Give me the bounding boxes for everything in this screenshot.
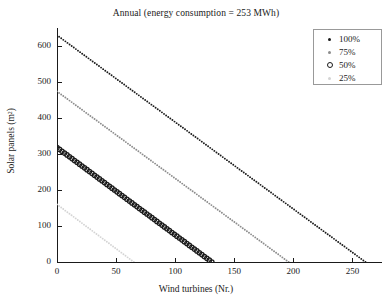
data-marker	[89, 115, 91, 117]
data-marker	[306, 218, 308, 220]
data-marker	[227, 216, 229, 218]
data-marker	[264, 187, 266, 189]
data-marker	[183, 184, 185, 186]
data-marker	[108, 129, 110, 131]
data-marker	[162, 169, 164, 171]
data-marker	[222, 156, 224, 158]
legend-label: 25%	[339, 71, 356, 85]
data-marker	[271, 249, 273, 251]
legend-item-100[interactable]: 100%	[314, 32, 383, 46]
data-marker	[225, 215, 227, 217]
data-marker	[133, 261, 135, 262]
data-marker	[289, 206, 291, 208]
data-marker	[92, 117, 94, 119]
data-marker	[104, 126, 106, 128]
data-marker	[210, 204, 212, 206]
data-marker	[256, 238, 258, 240]
data-marker	[236, 223, 238, 225]
data-marker	[261, 241, 263, 243]
data-marker	[233, 221, 235, 223]
legend-item-75[interactable]: 75%	[314, 45, 383, 59]
data-marker	[118, 250, 120, 252]
data-marker	[79, 221, 81, 223]
data-marker	[64, 40, 66, 42]
data-marker	[291, 207, 293, 209]
data-marker	[184, 128, 186, 130]
data-marker	[241, 170, 243, 172]
data-marker	[57, 90, 58, 92]
data-marker	[203, 142, 205, 144]
y-tick-label: 600	[25, 40, 51, 50]
data-marker	[177, 180, 179, 182]
data-marker	[106, 241, 108, 243]
data-marker	[114, 133, 116, 135]
x-axis-line	[57, 262, 382, 263]
data-marker	[167, 116, 169, 118]
data-marker	[121, 82, 123, 84]
data-marker	[179, 181, 181, 183]
data-marker	[215, 207, 217, 209]
data-marker	[220, 155, 222, 157]
data-marker	[144, 99, 146, 101]
data-marker	[211, 148, 213, 150]
data-marker	[195, 136, 197, 138]
data-marker	[169, 118, 171, 120]
data-marker	[209, 147, 211, 149]
data-marker	[287, 204, 289, 206]
data-marker	[247, 175, 249, 177]
data-marker	[96, 120, 98, 122]
data-marker	[228, 161, 230, 163]
data-marker	[219, 210, 221, 212]
data-marker	[87, 227, 89, 229]
data-marker	[175, 178, 177, 180]
data-marker	[354, 253, 356, 255]
data-marker	[108, 242, 110, 244]
legend-item-50[interactable]: 50%	[314, 58, 383, 72]
y-tick-label: 400	[25, 112, 51, 122]
data-marker	[116, 249, 118, 251]
data-marker	[246, 230, 248, 232]
data-marker	[106, 127, 108, 129]
data-marker	[274, 195, 276, 197]
data-marker	[276, 196, 278, 198]
y-axis-label: Solar panels (m²)	[6, 61, 16, 221]
data-marker	[58, 36, 60, 38]
data-marker	[96, 233, 98, 235]
data-marker	[253, 179, 255, 181]
data-marker	[69, 100, 71, 102]
data-marker	[112, 132, 114, 134]
data-marker	[318, 227, 320, 229]
data-marker	[325, 232, 327, 234]
data-marker	[206, 201, 208, 203]
y-tick-label: 100	[25, 220, 51, 230]
legend-label: 100%	[339, 32, 360, 46]
data-marker	[192, 135, 194, 137]
x-tick-label: 200	[273, 266, 313, 276]
data-marker	[71, 101, 73, 103]
data-marker	[267, 246, 269, 248]
data-marker	[182, 127, 184, 129]
data-marker	[260, 184, 262, 186]
data-marker	[129, 88, 131, 90]
legend-marker-icon	[323, 45, 337, 59]
data-marker	[161, 111, 163, 113]
data-marker	[254, 236, 256, 238]
data-marker	[286, 260, 288, 262]
data-marker	[327, 233, 329, 235]
data-marker	[148, 158, 150, 160]
data-marker	[154, 163, 156, 165]
data-marker	[117, 135, 119, 137]
chart-figure: Annual (energy consumption = 253 MWh) 05…	[0, 0, 392, 308]
data-marker	[238, 224, 240, 226]
chart-legend[interactable]: 100%75%50%25%	[313, 29, 382, 85]
data-marker	[83, 110, 85, 112]
data-marker	[339, 243, 341, 245]
data-marker	[171, 175, 173, 177]
data-marker	[117, 79, 119, 81]
data-marker	[197, 138, 199, 140]
data-marker	[104, 70, 106, 72]
data-marker	[62, 208, 64, 210]
data-marker	[180, 125, 182, 127]
legend-item-25[interactable]: 25%	[314, 71, 383, 85]
legend-marker-glyph	[328, 77, 331, 80]
